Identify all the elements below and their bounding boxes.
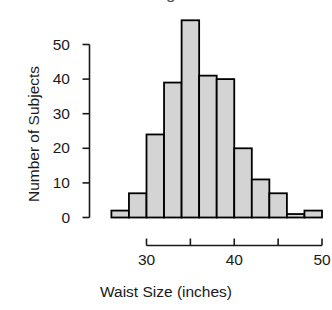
histogram-bar: [182, 20, 200, 217]
histogram-bar: [164, 83, 182, 218]
y-axis-tick-label: 40: [36, 71, 70, 87]
histogram-bar: [287, 214, 305, 217]
histogram-bar: [147, 134, 165, 217]
histogram-figure: Histogram Number of Subjects 01020304050…: [0, 0, 332, 310]
x-axis-tick-label: 50: [313, 252, 330, 268]
histogram-bar: [234, 148, 252, 217]
histogram-bar: [199, 76, 217, 218]
y-axis-tick-label: 50: [36, 37, 70, 53]
y-axis: [83, 45, 90, 218]
x-axis-tick-label: 30: [138, 252, 155, 268]
y-axis-tick-label: 20: [36, 141, 70, 157]
histogram-bar: [269, 193, 287, 217]
histogram-bar: [217, 79, 235, 217]
x-axis-tick-labels: 304050: [0, 252, 332, 276]
histogram-bar: [252, 179, 270, 217]
x-axis-tick-label: 40: [226, 252, 243, 268]
x-axis-label: Waist Size (inches): [0, 283, 332, 301]
y-axis-tick-label: 10: [36, 175, 70, 191]
x-axis: [147, 239, 323, 246]
y-axis-tick-label: 30: [36, 106, 70, 122]
histogram-bar: [129, 193, 147, 217]
y-axis-tick-label: 0: [36, 210, 70, 226]
histogram-bar: [304, 211, 322, 218]
histogram-bar: [111, 211, 129, 218]
bars-group: [111, 20, 322, 217]
chart-title-text: Histogram: [126, 0, 205, 3]
